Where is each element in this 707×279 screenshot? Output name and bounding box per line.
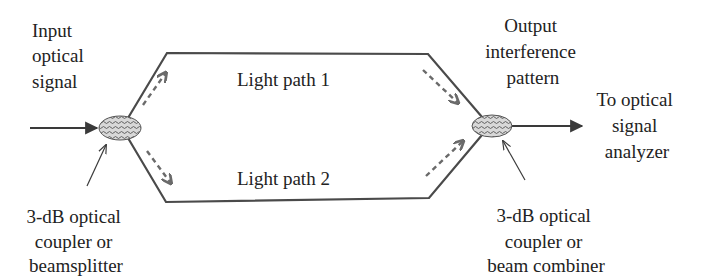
combiner-line-2: coupler or — [505, 231, 583, 252]
analyzer-label: To optical signal analyzer — [597, 89, 678, 162]
combiner-line-1: 3-dB optical — [496, 205, 590, 226]
mach-zehnder-diagram: Input optical signal Output interference… — [0, 0, 707, 279]
analyzer-line-3: analyzer — [605, 141, 670, 162]
output-pattern-line-2: interference — [485, 41, 576, 62]
dashed-arrow-up-right — [426, 142, 462, 176]
splitter-pointer-arrow — [87, 145, 106, 186]
output-pattern-label: Output interference pattern — [485, 15, 580, 88]
combiner-label: 3-dB optical coupler or beam combiner — [487, 205, 605, 276]
light-path-1-label: Light path 1 — [237, 69, 330, 90]
combiner-line-3: beam combiner — [487, 255, 605, 276]
input-label: Input optical signal — [32, 20, 88, 92]
light-path-2-label: Light path 2 — [237, 168, 330, 189]
combiner-pointer-arrow — [503, 141, 525, 180]
input-label-line-2: optical — [32, 45, 84, 66]
input-label-line-1: Input — [32, 20, 73, 41]
input-label-line-3: signal — [32, 71, 77, 92]
dashed-arrow-down-right — [423, 70, 457, 102]
splitter-coupler-icon — [99, 116, 141, 140]
splitter-line-2: coupler or — [35, 231, 113, 252]
analyzer-line-2: signal — [612, 115, 657, 136]
output-pattern-line-3: pattern — [507, 67, 560, 88]
combiner-coupler-icon — [472, 115, 512, 137]
analyzer-line-1: To optical — [597, 89, 673, 110]
splitter-label: 3-dB optical coupler or beamsplitter — [26, 206, 125, 276]
splitter-line-1: 3-dB optical — [26, 206, 120, 227]
output-pattern-line-1: Output — [504, 15, 558, 36]
splitter-line-3: beamsplitter — [29, 255, 124, 276]
